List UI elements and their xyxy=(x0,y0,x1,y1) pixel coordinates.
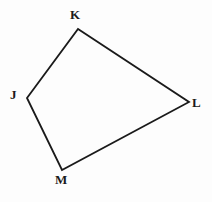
vertex-label-l: L xyxy=(192,96,201,109)
geometry-figure: J K L M xyxy=(0,0,212,202)
quadrilateral-jklm-outline xyxy=(27,29,189,170)
vertex-label-k: K xyxy=(70,8,80,21)
quadrilateral-svg xyxy=(0,0,212,202)
vertex-label-m: M xyxy=(55,173,67,186)
vertex-label-j: J xyxy=(10,88,17,101)
